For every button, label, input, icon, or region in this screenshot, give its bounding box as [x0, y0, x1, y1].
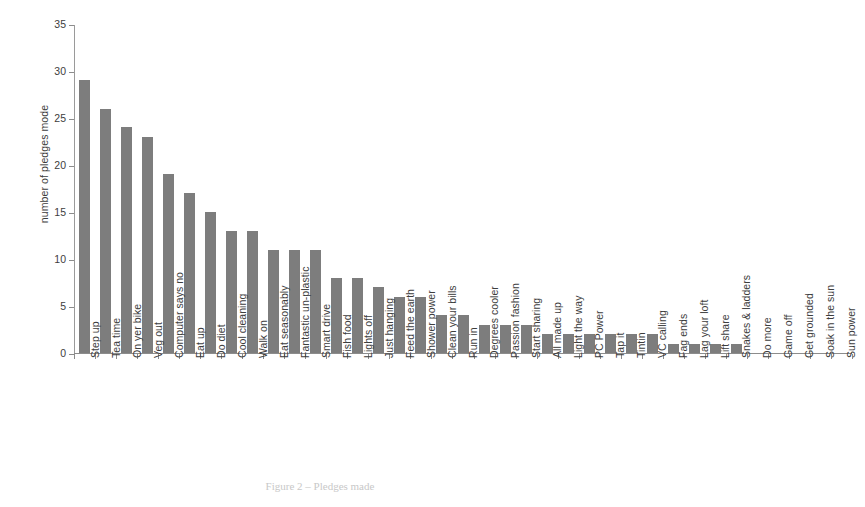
x-axis-label: Passion fashion: [509, 283, 521, 358]
bar: [142, 137, 153, 353]
x-axis-label: Run in: [467, 327, 479, 358]
x-axis-label: Lift share: [719, 314, 731, 358]
x-axis-label: Computer says no: [173, 272, 185, 358]
x-axis-label: Fantastic un-plastic: [299, 267, 311, 358]
x-axis-labels: Step upTea timeOn yer bikeVeg outCompute…: [74, 358, 852, 478]
y-tick-mark: [69, 72, 74, 73]
x-axis-label: Light the way: [572, 295, 584, 358]
y-axis-line: [74, 25, 75, 354]
x-axis-label: Clean your bills: [446, 285, 458, 358]
y-tick-label: 0: [60, 347, 66, 359]
bar-chart-figure: number of pledges mode 05101520253035 St…: [0, 0, 865, 507]
x-axis-label: On yer bike: [131, 304, 143, 358]
y-axis-tick: 5: [74, 307, 75, 308]
y-tick-label: 5: [60, 300, 66, 312]
x-axis-label: Do more: [761, 317, 773, 358]
y-axis-tick: 30: [74, 72, 75, 73]
y-axis-tick: 10: [74, 260, 75, 261]
y-tick-mark: [69, 119, 74, 120]
x-axis-label: Walk on: [257, 320, 269, 358]
y-tick-label: 30: [54, 65, 66, 77]
y-tick-mark: [69, 213, 74, 214]
x-axis-label: Smart drive: [320, 304, 332, 358]
x-axis-label: Eat seasonably: [278, 286, 290, 359]
x-axis-label: Cool cleaning: [236, 294, 248, 358]
x-axis-label: Snakes & ladders: [740, 275, 752, 358]
bar: [100, 109, 111, 353]
x-axis-label: Veg out: [152, 322, 164, 358]
y-tick-label: 35: [54, 18, 66, 30]
x-axis-label: Shower power: [425, 290, 437, 358]
x-axis-label: Game off: [782, 315, 794, 358]
y-tick-mark: [69, 260, 74, 261]
y-axis-tick: 20: [74, 166, 75, 167]
y-tick-label: 10: [54, 253, 66, 265]
x-axis-label: All made up: [551, 302, 563, 358]
y-tick-mark: [69, 307, 74, 308]
y-axis-title: number of pledges mode: [38, 84, 50, 244]
x-axis-label: Lights off: [362, 315, 374, 358]
y-tick-mark: [69, 166, 74, 167]
x-axis-label: Feed the earth: [404, 289, 416, 358]
plot-area: 05101520253035: [74, 25, 852, 354]
x-axis-label: Degrees cooler: [488, 286, 500, 358]
y-axis-tick: 35: [74, 25, 75, 26]
x-axis-line: [74, 353, 852, 354]
x-axis-label: Just hanging: [383, 298, 395, 358]
x-axis-label: Lag your loft: [698, 300, 710, 358]
y-tick-label: 25: [54, 112, 66, 124]
x-axis-label: Tea time: [110, 318, 122, 358]
x-axis-label: Tintin: [635, 332, 647, 358]
y-tick-label: 15: [54, 206, 66, 218]
x-axis-label: PC Power: [593, 310, 605, 358]
x-axis-label: Do diet: [215, 324, 227, 358]
figure-caption: Figure 2 – Pledges made: [0, 480, 640, 492]
x-axis-label: Step up: [89, 321, 101, 358]
x-axis-label: Fish food: [341, 314, 353, 358]
x-axis-label: Soak in the sun: [824, 285, 836, 358]
x-axis-label: Sun power: [845, 307, 857, 358]
x-axis-label: Fag ends: [677, 314, 689, 358]
x-axis-label: Get grounded: [803, 293, 815, 358]
x-axis-label: Eat up: [194, 327, 206, 358]
y-tick-label: 20: [54, 159, 66, 171]
bar: [79, 80, 90, 353]
x-axis-label: Tap it: [614, 333, 626, 358]
y-tick-mark: [69, 25, 74, 26]
y-axis-tick: 25: [74, 119, 75, 120]
x-axis-label: Start sharing: [530, 298, 542, 358]
x-axis-label: VC calling: [656, 310, 668, 358]
y-axis-tick: 15: [74, 213, 75, 214]
